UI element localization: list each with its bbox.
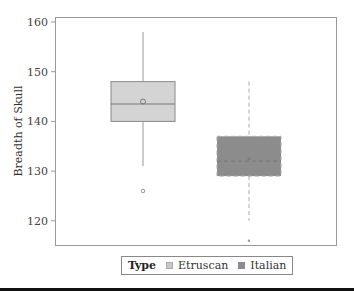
legend-title: Type (128, 259, 156, 272)
box-plot-chart: Breadth of Skull 120130140150160 (0, 0, 354, 291)
y-tick-label: 140 (27, 115, 48, 128)
iqr-box (111, 82, 175, 122)
mean-marker (248, 157, 251, 160)
y-tick-label: 120 (27, 215, 48, 228)
legend-item-italian: Italian (238, 259, 286, 272)
legend-swatch-italian (238, 262, 245, 269)
legend-label-etruscan: Etruscan (178, 259, 228, 272)
y-tick-label: 130 (27, 165, 48, 178)
legend-item-etruscan: Etruscan (166, 259, 228, 272)
y-axis-ticks: 120130140150160 (27, 16, 56, 228)
iqr-box (217, 136, 281, 176)
plot-area (56, 18, 337, 246)
legend: Type Etruscan Italian (121, 256, 293, 275)
y-tick-label: 150 (27, 66, 48, 79)
outlier-point (248, 239, 250, 241)
legend-swatch-etruscan (166, 262, 173, 269)
y-axis-title: Breadth of Skull (12, 85, 25, 176)
legend-label-italian: Italian (250, 259, 286, 272)
y-tick-label: 160 (27, 16, 48, 29)
